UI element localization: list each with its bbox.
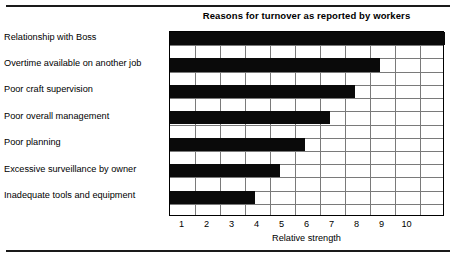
- bar: [170, 164, 280, 177]
- x-tick-label: 7: [320, 219, 344, 229]
- x-tick-label: 2: [195, 219, 219, 229]
- x-tick-label: 6: [295, 219, 319, 229]
- bar: [170, 58, 380, 71]
- x-tick-label: 5: [270, 219, 294, 229]
- bottom-rule: [6, 250, 450, 252]
- x-tick-label: 3: [220, 219, 244, 229]
- bar: [170, 32, 445, 45]
- x-tick-label: 10: [395, 219, 419, 229]
- bar: [170, 111, 330, 124]
- x-tick-label: 4: [245, 219, 269, 229]
- x-axis-title: Relative strength: [169, 233, 444, 243]
- chart-title: Reasons for turnover as reported by work…: [169, 10, 444, 21]
- category-label: Poor overall management: [4, 111, 166, 122]
- bar: [170, 191, 255, 204]
- x-tick-label: 8: [345, 219, 369, 229]
- bar-series: [170, 32, 443, 215]
- category-label: Poor planning: [4, 137, 166, 148]
- category-label: Relationship with Boss: [4, 32, 166, 43]
- plot-area: [169, 31, 444, 216]
- bar: [170, 85, 355, 98]
- x-tick-label: 1: [170, 219, 194, 229]
- bar: [170, 138, 305, 151]
- x-tick-label: 9: [370, 219, 394, 229]
- category-label: Inadequate tools and equipment: [4, 190, 166, 201]
- x-axis-tick-labels: 12345678910: [169, 219, 444, 232]
- category-label: Overtime available on another job: [4, 58, 166, 69]
- category-label: Poor craft supervision: [4, 84, 166, 95]
- category-axis-labels: Relationship with BossOvertime available…: [4, 31, 166, 216]
- chart-figure: Reasons for turnover as reported by work…: [0, 0, 456, 263]
- top-rule: [6, 5, 450, 7]
- category-label: Excessive surveillance by owner: [4, 164, 166, 175]
